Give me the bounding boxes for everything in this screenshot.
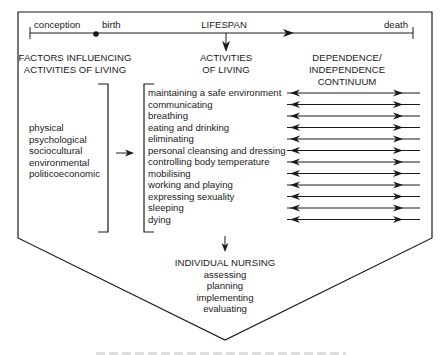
continuum-arrow-row xyxy=(287,205,420,212)
nursing-title: INDIVIDUAL NURSING xyxy=(175,257,275,268)
activities-header-line2: OF LIVING xyxy=(202,64,249,75)
timeline-end-label: death xyxy=(384,19,408,30)
continuum-arrow-row xyxy=(287,170,420,177)
activity-item: maintaining a safe environment xyxy=(148,87,282,98)
activity-item: dying xyxy=(148,214,171,225)
continuum-arrow-row xyxy=(287,124,420,131)
factors-list: physical psychological sociocultural env… xyxy=(29,122,100,179)
activity-item: communicating xyxy=(148,99,213,110)
continuum-arrows xyxy=(287,90,420,224)
continuum-arrow-row xyxy=(287,216,420,223)
activity-item: personal cleansing and dressing xyxy=(148,145,286,156)
activity-item: mobilising xyxy=(148,168,191,179)
activity-item: working and playing xyxy=(147,179,233,190)
continuum-arrow-row xyxy=(287,147,420,154)
timeline-title: LIFESPAN xyxy=(201,19,247,30)
factor-item: sociocultural xyxy=(29,145,82,156)
figure-caption-clipped xyxy=(96,350,346,355)
factors-bracket xyxy=(98,84,108,232)
factors-header-line2: ACTIVITIES OF LIVING xyxy=(24,64,126,75)
nursing-step: planning xyxy=(207,280,243,291)
timeline-start-label: conception xyxy=(34,19,80,30)
continuum-header-line2: INDEPENDENCE xyxy=(309,64,385,75)
factors-header-line1: FACTORS INFLUENCING xyxy=(19,52,132,63)
individual-nursing: INDIVIDUAL NURSING assessing planning im… xyxy=(175,257,275,314)
activity-item: eating and drinking xyxy=(148,122,229,133)
continuum-header-line1: DEPENDENCE/ xyxy=(312,52,382,63)
factor-item: politicoeconomic xyxy=(29,168,100,179)
factor-item: environmental xyxy=(29,157,89,168)
timeline-birth-label: birth xyxy=(102,19,121,30)
continuum-arrow-row xyxy=(287,113,420,120)
nursing-step: evaluating xyxy=(203,303,247,314)
birth-dot-icon xyxy=(93,31,99,37)
activity-item: breathing xyxy=(148,110,188,121)
lifespan-timeline: conception birth LIFESPAN death xyxy=(30,19,413,52)
nursing-step: implementing xyxy=(196,292,253,303)
continuum-arrow-row xyxy=(287,182,420,189)
continuum-header-line3: CONTINUUM xyxy=(318,76,377,87)
factor-item: psychological xyxy=(29,134,87,145)
activity-item: controlling body temperature xyxy=(148,156,270,167)
activity-item: eliminating xyxy=(148,133,194,144)
activities-list: maintaining a safe environment communica… xyxy=(147,87,286,225)
activities-header-line1: ACTIVITIES xyxy=(200,52,252,63)
continuum-arrow-row xyxy=(287,159,420,166)
nursing-step: assessing xyxy=(204,269,247,280)
continuum-arrow-row xyxy=(287,193,420,200)
roper-logan-tierney-model-diagram: conception birth LIFESPAN death FACTORS … xyxy=(0,0,448,355)
factor-item: physical xyxy=(29,122,64,133)
continuum-arrow-row xyxy=(287,90,420,97)
continuum-arrow-row xyxy=(287,136,420,143)
activity-item: sleeping xyxy=(148,202,184,213)
activity-item: expressing sexuality xyxy=(148,191,235,202)
column-headers: FACTORS INFLUENCING ACTIVITIES OF LIVING… xyxy=(19,52,386,87)
continuum-arrow-row xyxy=(287,101,420,108)
